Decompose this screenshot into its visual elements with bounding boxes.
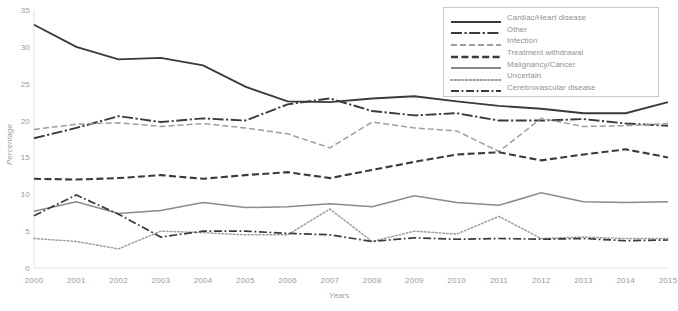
x-tick-label: 2014 xyxy=(616,276,635,285)
legend-key-icon xyxy=(449,13,503,23)
legend-key-icon xyxy=(449,48,503,58)
legend-label: Cardiac/Heart disease xyxy=(507,13,586,22)
x-tick-label: 2012 xyxy=(532,276,551,285)
series-line-treatment-withdrawal xyxy=(34,149,668,179)
x-tick-label: 2009 xyxy=(405,276,424,285)
series-line-infection xyxy=(34,118,668,151)
legend-label: Cerebrovascular disease xyxy=(507,83,596,92)
chart-figure: 05101520253035 Percentage 20002001200220… xyxy=(0,0,678,311)
x-tick-label: 2004 xyxy=(194,276,213,285)
legend-label: Other xyxy=(507,25,527,34)
x-tick-label: 2010 xyxy=(447,276,466,285)
series-line-uncertain xyxy=(34,209,668,249)
x-tick-label: 2002 xyxy=(109,276,128,285)
x-tick-label: 2015 xyxy=(659,276,678,285)
legend-label: Uncertain xyxy=(507,71,541,80)
legend-key-icon xyxy=(449,82,503,92)
legend-label: Treatment withdrawal xyxy=(507,48,583,57)
legend-item[interactable]: Cerebrovascular disease xyxy=(449,82,653,94)
x-tick-label: 2006 xyxy=(278,276,297,285)
x-axis-labels: 2000200120022003200420052006200720082009… xyxy=(0,276,678,290)
x-axis-title: Years xyxy=(0,291,678,300)
x-tick-label: 2011 xyxy=(490,276,508,285)
legend-label: Malignancy/Cancer xyxy=(507,60,575,69)
x-tick-label: 2013 xyxy=(574,276,593,285)
x-tick-label: 2008 xyxy=(363,276,382,285)
x-tick-label: 2003 xyxy=(151,276,170,285)
x-tick-label: 2001 xyxy=(67,276,86,285)
legend-item[interactable]: Treatment withdrawal xyxy=(449,47,653,59)
series-line-other xyxy=(34,98,668,138)
series-line-cerebrovascular-disease xyxy=(34,195,668,241)
legend-key-icon xyxy=(449,59,503,69)
legend-item[interactable]: Uncertain xyxy=(449,70,653,82)
series-line-malignancy-cancer xyxy=(34,193,668,214)
legend-key-icon xyxy=(449,36,503,46)
chart-legend: Cardiac/Heart diseaseOtherInfectionTreat… xyxy=(443,7,659,97)
legend-item[interactable]: Malignancy/Cancer xyxy=(449,58,653,70)
x-tick-label: 2007 xyxy=(321,276,340,285)
legend-item[interactable]: Other xyxy=(449,24,653,36)
x-tick-label: 2005 xyxy=(236,276,255,285)
legend-key-icon xyxy=(449,71,503,81)
legend-item[interactable]: Infection xyxy=(449,35,653,47)
x-tick-label: 2000 xyxy=(25,276,44,285)
legend-item[interactable]: Cardiac/Heart disease xyxy=(449,12,653,24)
legend-label: Infection xyxy=(507,36,537,45)
legend-key-icon xyxy=(449,24,503,34)
